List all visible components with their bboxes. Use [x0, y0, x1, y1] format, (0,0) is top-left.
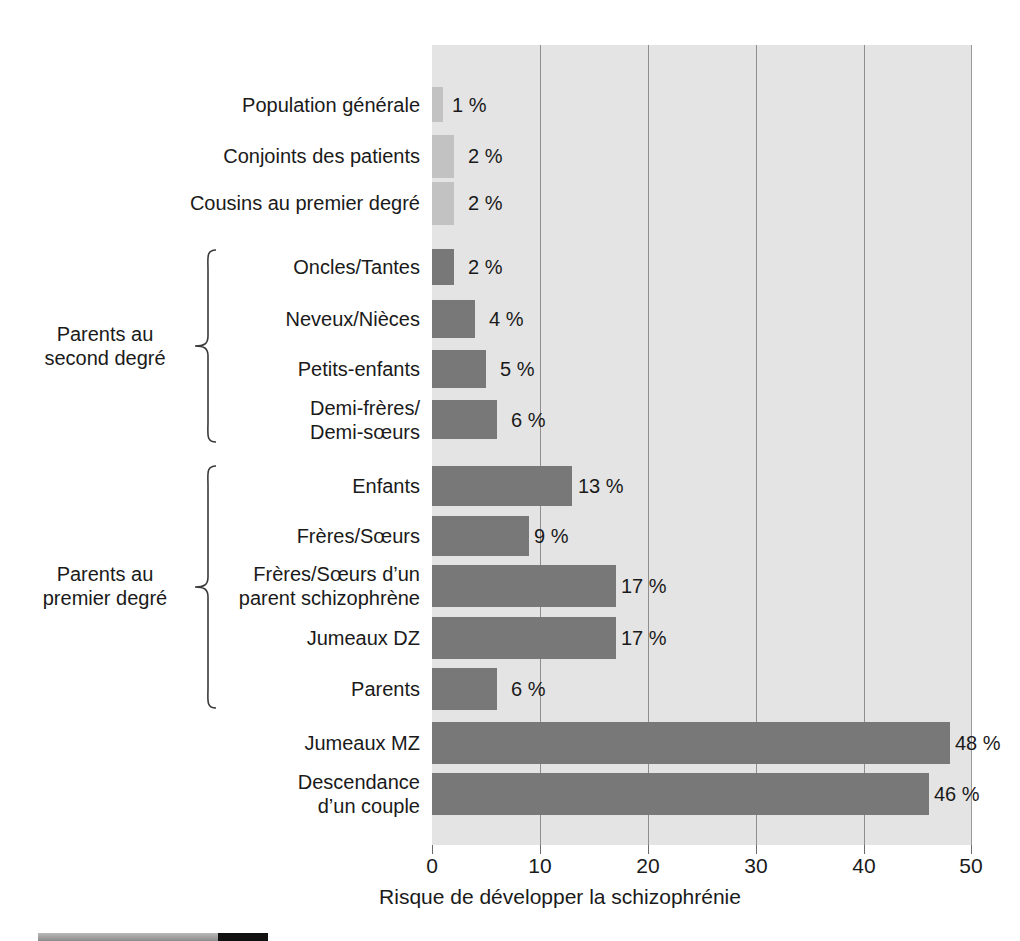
value-label-cousins-premier-degre: 2 %: [468, 193, 502, 213]
group-brace-second-degre: [192, 248, 222, 444]
bar-parents: [432, 668, 497, 710]
category-label-descendance-couple: Descendance d’un couple: [100, 770, 420, 818]
bar-population-generale: [432, 87, 443, 122]
bar-conjoints-des-patients: [432, 135, 454, 178]
value-label-conjoints-des-patients: 2 %: [468, 146, 502, 166]
category-label-enfants: Enfants: [100, 474, 420, 498]
category-label-freres-soeurs: Frères/Sœurs: [100, 524, 420, 548]
value-label-freres-soeurs-parent-schizophrene: 17 %: [621, 576, 667, 596]
page-edge-artifact-gray: [38, 933, 218, 941]
value-label-parents: 6 %: [511, 679, 545, 699]
bar-jumeaux-mz: [432, 722, 950, 764]
bar-oncles-tantes: [432, 249, 454, 285]
value-label-oncles-tantes: 2 %: [468, 257, 502, 277]
tick-mark-50: [971, 845, 972, 854]
tick-label-30: 30: [726, 855, 786, 876]
bar-freres-soeurs: [432, 516, 529, 556]
category-label-cousins-premier-degre: Cousins au premier degré: [100, 191, 420, 215]
category-label-demi-freres-soeurs: Demi-frères/ Demi-sœurs: [100, 396, 420, 444]
page-edge-artifact-black: [218, 933, 268, 941]
schizophrenia-risk-bar-chart: 1 % 2 % 2 % 2 % 4 % 5 % 6 % 13 % 9 % 17 …: [0, 0, 1020, 941]
group-label-premier-degre: Parents au premier degré: [20, 562, 190, 610]
value-label-neveux-nieces: 4 %: [489, 309, 523, 329]
category-label-jumeaux-mz: Jumeaux MZ: [100, 731, 420, 755]
tick-mark-0: [432, 845, 433, 854]
category-label-oncles-tantes: Oncles/Tantes: [100, 255, 420, 279]
bar-neveux-nieces: [432, 300, 475, 338]
category-label-population-generale: Population générale: [100, 93, 420, 117]
value-label-jumeaux-dz: 17 %: [621, 628, 667, 648]
bar-descendance-couple: [432, 773, 929, 815]
group-brace-premier-degre: [192, 464, 222, 710]
value-label-demi-freres-soeurs: 6 %: [511, 410, 545, 430]
value-label-descendance-couple: 46 %: [934, 784, 980, 804]
tick-label-40: 40: [834, 855, 894, 876]
value-label-petits-enfants: 5 %: [500, 359, 534, 379]
value-label-enfants: 13 %: [578, 476, 624, 496]
value-label-population-generale: 1 %: [452, 95, 486, 115]
gridline-50: [971, 45, 972, 845]
tick-mark-10: [540, 845, 541, 854]
category-label-jumeaux-dz: Jumeaux DZ: [100, 626, 420, 650]
bar-demi-freres-soeurs: [432, 400, 497, 439]
category-label-parents: Parents: [100, 677, 420, 701]
tick-label-50: 50: [941, 855, 1001, 876]
bar-jumeaux-dz: [432, 617, 616, 659]
bar-enfants: [432, 466, 572, 506]
tick-mark-30: [756, 845, 757, 854]
bar-petits-enfants: [432, 350, 486, 388]
category-label-conjoints-des-patients: Conjoints des patients: [100, 144, 420, 168]
tick-mark-20: [648, 845, 649, 854]
group-label-second-degre: Parents au second degré: [20, 322, 190, 370]
tick-mark-40: [864, 845, 865, 854]
value-label-freres-soeurs: 9 %: [534, 526, 568, 546]
tick-label-0: 0: [402, 855, 462, 876]
tick-label-20: 20: [618, 855, 678, 876]
bar-cousins-premier-degre: [432, 182, 454, 225]
value-label-jumeaux-mz: 48 %: [955, 733, 1001, 753]
x-axis-title: Risque de développer la schizophrénie: [379, 885, 741, 909]
tick-label-10: 10: [510, 855, 570, 876]
bar-freres-soeurs-parent-schizophrene: [432, 565, 616, 607]
x-axis-title-wrapper: Risque de développer la schizophrénie: [0, 885, 1020, 909]
